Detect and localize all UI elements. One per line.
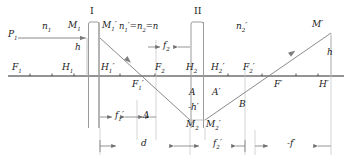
ray-direction-arrow-2 <box>288 49 297 57</box>
point-label-Mp: M′ <box>312 20 323 29</box>
height-label-h-right: h <box>327 48 333 57</box>
point-label-H1p: H1′ <box>101 63 114 74</box>
lens-label-2: II <box>194 6 202 16</box>
diagram-canvas <box>0 0 350 165</box>
point-label-F1: F1 <box>12 63 22 74</box>
point-label-H2p: H2′ <box>211 63 224 74</box>
lens-element-1 <box>89 22 100 128</box>
optical-ray-diagram: I II n1 n1′=n2=n n2′ P1 M1 M1′ M′ h h -h… <box>0 0 350 165</box>
ray-between-lenses <box>100 38 190 120</box>
point-label-M2: M2 <box>186 120 199 131</box>
point-label-F2: F2 <box>155 63 165 74</box>
lens-label-1: I <box>90 6 94 16</box>
dimension-label-delta: Δ <box>143 111 150 120</box>
dimension-label-f2: f2 <box>163 41 170 52</box>
point-label-M1p: M1′ <box>102 21 117 32</box>
point-label-Ap: A′ <box>212 88 221 97</box>
medium-label-n2p: n2′ <box>236 22 247 33</box>
point-label-M2p: M2′ <box>206 120 221 131</box>
point-label-P1: P1 <box>8 30 18 41</box>
point-label-F1p: F1′ <box>132 80 144 91</box>
point-label-Hp: H′ <box>319 80 329 89</box>
point-label-H1: H1 <box>62 63 73 74</box>
point-label-F2p: F2′ <box>243 63 255 74</box>
point-label-A: A <box>189 88 196 97</box>
lens-element-2 <box>191 22 204 128</box>
medium-label-n1p-n2-n: n1′=n2=n <box>119 22 158 33</box>
dimension-label-f1p: f1′ <box>115 111 124 122</box>
point-label-B: B <box>239 100 246 109</box>
point-label-M1: M1 <box>68 21 81 32</box>
height-label-h-left: h <box>75 43 81 52</box>
dimension-label-fp: -f′ <box>287 139 295 148</box>
medium-label-n1: n1 <box>42 22 51 33</box>
height-label-minus-hp: -h′ <box>188 103 199 112</box>
point-label-Fp: F′ <box>274 80 282 89</box>
optical-axis <box>8 74 344 77</box>
dimension-label-f2p: f2′ <box>213 139 222 150</box>
dimension-label-d: d <box>141 139 147 148</box>
point-label-H2: H2 <box>186 63 197 74</box>
